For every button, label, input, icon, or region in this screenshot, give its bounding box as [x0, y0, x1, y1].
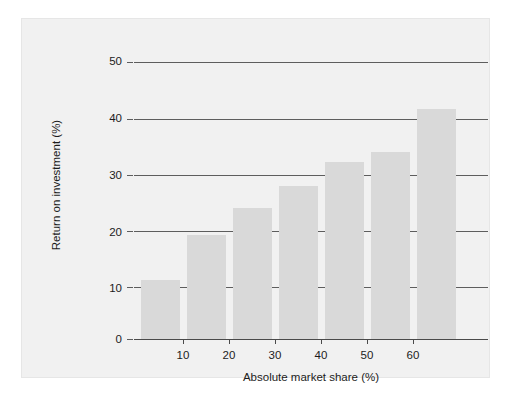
x-tick-mark-30: [275, 339, 276, 344]
x-tick-label-10: 10: [163, 349, 203, 361]
y-tick-label-20: 20: [88, 227, 122, 238]
y-tick-label-0: 0: [88, 334, 122, 345]
y-tick-mark-10: [127, 287, 133, 288]
x-tick-label-20: 20: [209, 349, 249, 361]
y-tick-label-50: 50: [88, 56, 122, 67]
y-tick-label-40: 40: [88, 113, 122, 124]
y-tick-mark-30: [127, 175, 133, 176]
x-tick-mark-50: [367, 339, 368, 344]
y-tick-mark-50: [127, 62, 133, 63]
chart-panel: Return on investment (%) 50 40 30 20 10 …: [21, 18, 490, 378]
x-tick-mark-10: [183, 339, 184, 344]
bar-4: [279, 186, 318, 339]
x-tick-label-60: 60: [393, 349, 433, 361]
x-tick-label-50: 50: [347, 349, 387, 361]
x-tick-mark-60: [413, 339, 414, 344]
x-tick-label-40: 40: [301, 349, 341, 361]
y-tick-mark-40: [127, 119, 133, 120]
bar-7: [417, 109, 456, 339]
bar-3: [233, 208, 272, 339]
y-tick-mark-0: [127, 339, 133, 340]
x-axis-tick-labels: 10 20 30 40 50 60: [134, 349, 488, 365]
x-tick-mark-40: [321, 339, 322, 344]
x-axis-title: Absolute market share (%): [134, 371, 488, 383]
y-tick-label-10: 10: [88, 283, 122, 294]
y-axis-title: Return on investment (%): [50, 65, 62, 305]
chart-figure: Return on investment (%) 50 40 30 20 10 …: [0, 0, 512, 397]
bar-5: [325, 162, 364, 339]
y-tick-mark-20: [127, 231, 133, 232]
x-tick-mark-20: [229, 339, 230, 344]
bar-2: [187, 235, 226, 339]
bar-6: [371, 152, 410, 339]
y-axis-tick-labels: 50 40 30 20 10 0: [88, 55, 122, 347]
gridline-50: [134, 62, 488, 63]
x-axis-ticks: [134, 339, 488, 345]
y-tick-label-30: 30: [88, 170, 122, 181]
plot-area: [134, 55, 488, 347]
bar-1: [141, 280, 180, 339]
x-tick-label-30: 30: [255, 349, 295, 361]
